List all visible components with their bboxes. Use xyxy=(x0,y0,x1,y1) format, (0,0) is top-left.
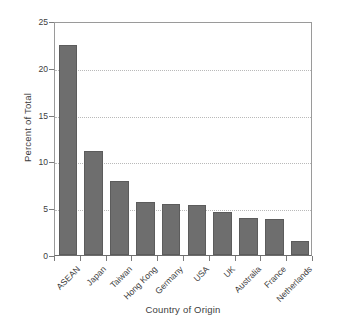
y-tick-mark xyxy=(49,116,54,117)
x-tick-mark xyxy=(54,256,55,261)
y-tick-label: 15 xyxy=(18,111,48,121)
bar xyxy=(110,181,129,255)
x-category-label: Australia xyxy=(114,264,262,332)
x-axis-title: Country of Origin xyxy=(54,304,312,315)
x-tick-mark xyxy=(157,256,158,261)
y-tick-mark xyxy=(49,162,54,163)
bar xyxy=(213,212,232,255)
bar xyxy=(265,219,284,255)
bars-layer xyxy=(55,23,311,255)
y-tick-mark xyxy=(49,69,54,70)
x-tick-mark xyxy=(260,256,261,261)
y-tick-label: 25 xyxy=(18,17,48,27)
bar-chart-figure: Percent of Total 0510152025 ASEANJapanTa… xyxy=(0,0,344,332)
x-tick-mark xyxy=(286,256,287,261)
y-tick-mark xyxy=(49,22,54,23)
y-tick-label: 20 xyxy=(18,64,48,74)
bar xyxy=(59,45,78,255)
bar xyxy=(188,205,207,255)
x-tick-mark xyxy=(80,256,81,261)
x-tick-mark xyxy=(183,256,184,261)
y-tick-mark xyxy=(49,209,54,210)
x-category-label: UK xyxy=(88,264,236,332)
y-tick-label: 5 xyxy=(18,204,48,214)
x-category-label: Germany xyxy=(37,264,185,332)
x-category-label: Hong Kong xyxy=(11,264,159,332)
y-tick-label: 0 xyxy=(18,251,48,261)
x-category-label: Netherlands xyxy=(166,264,314,332)
x-tick-mark xyxy=(106,256,107,261)
bar xyxy=(162,204,181,255)
x-tick-mark xyxy=(312,256,313,261)
plot-area xyxy=(54,22,312,256)
y-axis-title: Percent of Total xyxy=(22,63,33,193)
x-category-label: USA xyxy=(62,264,210,332)
x-tick-mark xyxy=(131,256,132,261)
x-tick-mark xyxy=(235,256,236,261)
bar xyxy=(239,218,258,255)
bar xyxy=(136,202,155,255)
y-tick-label: 10 xyxy=(18,157,48,167)
x-category-label: France xyxy=(140,264,288,332)
bar xyxy=(84,151,103,255)
x-tick-mark xyxy=(209,256,210,261)
bar xyxy=(291,241,310,255)
